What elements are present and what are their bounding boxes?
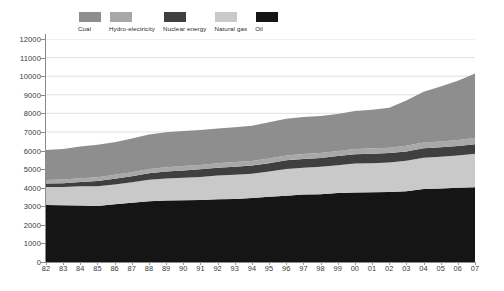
y-axis-tick [41, 151, 45, 152]
x-axis-tick [200, 262, 201, 265]
y-axis-tick-label: 12000 [19, 35, 41, 44]
legend-label-natural-gas: Natural gas [214, 25, 247, 33]
y-axis-tick [41, 243, 45, 244]
legend-label-oil: Oil [255, 25, 263, 33]
y-axis-tick [41, 39, 45, 40]
area-series-group [46, 73, 475, 262]
legend-item-hydro-electricity[interactable]: Hydro-electricity [109, 12, 155, 33]
x-axis-tick [475, 262, 476, 265]
y-axis-tick-label: 8000 [24, 109, 41, 118]
y-axis-tick-label: 1000 [24, 239, 41, 248]
x-axis-tick-label: 00 [351, 264, 359, 273]
legend-item-natural-gas[interactable]: Natural gas [214, 12, 247, 33]
x-axis-tick-label: 03 [402, 264, 410, 273]
x-axis-tick-label: 01 [368, 264, 376, 273]
x-axis-tick-label: 91 [196, 264, 204, 273]
x-axis-tick [303, 262, 304, 265]
legend-swatch-oil [256, 12, 278, 22]
y-axis-tick-label: 11000 [20, 53, 41, 62]
stacked-area-chart [46, 39, 475, 262]
x-axis-tick [406, 262, 407, 265]
x-axis-tick-label: 82 [42, 264, 50, 273]
y-axis-tick [41, 58, 45, 59]
x-axis-tick [63, 262, 64, 265]
x-axis-tick [235, 262, 236, 265]
x-axis-tick [355, 262, 356, 265]
x-axis-tick [321, 262, 322, 265]
x-axis-tick-label: 99 [334, 264, 342, 273]
x-axis-tick-label: 90 [179, 264, 187, 273]
y-axis-tick [41, 113, 45, 114]
legend-label-nuclear-energy: Nuclear energy [163, 25, 206, 33]
chart-legend: Coal Hydro-electricity Nuclear energy Na… [78, 12, 278, 33]
y-axis-tick-label: 2000 [24, 220, 41, 229]
x-axis-tick-label: 88 [145, 264, 153, 273]
y-axis-tick [41, 169, 45, 170]
y-axis-tick-label: 10000 [19, 72, 41, 81]
legend-label-coal: Coal [78, 25, 91, 33]
x-axis-tick [97, 262, 98, 265]
y-axis-tick [41, 225, 45, 226]
y-axis-tick-label: 4000 [24, 183, 41, 192]
x-axis-tick [46, 262, 47, 265]
x-axis-tick [149, 262, 150, 265]
x-axis-tick [115, 262, 116, 265]
y-axis-tick [41, 95, 45, 96]
legend-swatch-natural-gas [215, 12, 237, 22]
x-axis-tick [218, 262, 219, 265]
x-axis-tick [441, 262, 442, 265]
legend-swatch-nuclear-energy [164, 12, 186, 22]
x-axis-tick-label: 85 [93, 264, 101, 273]
x-axis-tick-label: 98 [316, 264, 324, 273]
x-axis-tick-label: 04 [419, 264, 427, 273]
legend-item-nuclear-energy[interactable]: Nuclear energy [163, 12, 206, 33]
x-axis-tick-label: 93 [231, 264, 239, 273]
y-axis-tick [41, 76, 45, 77]
legend-label-hydro-electricity: Hydro-electricity [109, 25, 155, 33]
legend-item-oil[interactable]: Oil [255, 12, 278, 33]
y-axis-tick [41, 188, 45, 189]
x-axis-tick-label: 06 [454, 264, 462, 273]
y-axis-tick-label: 5000 [24, 165, 41, 174]
x-axis-tick-label: 94 [248, 264, 256, 273]
chart-root: Coal Hydro-electricity Nuclear energy Na… [0, 0, 504, 291]
legend-item-coal[interactable]: Coal [78, 12, 101, 33]
x-axis-labels: 8283848586878889909192939495969798990001… [0, 264, 504, 284]
x-axis-tick-label: 83 [59, 264, 67, 273]
x-axis-tick [372, 262, 373, 265]
y-axis-tick-label: 6000 [24, 146, 41, 155]
x-axis-tick [269, 262, 270, 265]
x-axis-tick [424, 262, 425, 265]
y-axis-tick-label: 7000 [24, 127, 41, 136]
x-axis-tick [166, 262, 167, 265]
x-axis-tick [286, 262, 287, 265]
y-axis-tick-label: 9000 [24, 90, 41, 99]
x-axis-tick-label: 92 [213, 264, 221, 273]
legend-swatch-coal [79, 12, 101, 22]
x-axis-tick [389, 262, 390, 265]
y-axis-tick-label: 3000 [24, 202, 41, 211]
x-axis-tick [132, 262, 133, 265]
x-axis-tick-label: 07 [471, 264, 479, 273]
x-axis-tick-label: 96 [282, 264, 290, 273]
y-axis-labels: 0100020003000400050006000700080009000100… [0, 0, 41, 291]
x-axis-tick-label: 84 [76, 264, 84, 273]
y-axis-tick [41, 206, 45, 207]
plot-area [46, 39, 475, 262]
y-axis-tick [41, 132, 45, 133]
x-axis-tick [252, 262, 253, 265]
x-axis-tick-label: 87 [128, 264, 136, 273]
x-axis-tick-label: 05 [436, 264, 444, 273]
x-axis-tick [80, 262, 81, 265]
y-axis-tick [41, 262, 45, 263]
x-axis-tick [338, 262, 339, 265]
x-axis-tick-label: 97 [299, 264, 307, 273]
x-axis-tick [458, 262, 459, 265]
x-axis-tick-label: 86 [110, 264, 118, 273]
x-axis-tick-label: 95 [265, 264, 273, 273]
x-axis-tick-label: 89 [162, 264, 170, 273]
legend-swatch-hydro-electricity [110, 12, 132, 22]
x-axis-tick-label: 02 [385, 264, 393, 273]
x-axis-tick [183, 262, 184, 265]
